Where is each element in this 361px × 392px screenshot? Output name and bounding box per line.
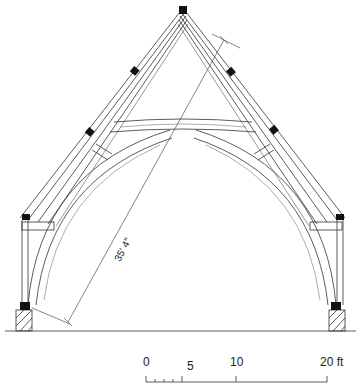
- truss-drawing: [0, 0, 361, 392]
- left-rafter: [20, 8, 188, 226]
- right-arch-brace: [194, 130, 336, 305]
- left-arch-brace: [28, 130, 172, 305]
- scale-tick-10: 10: [230, 355, 243, 369]
- right-rafter: [178, 8, 345, 226]
- scale-bar: [146, 376, 327, 382]
- scale-tick-0: 0: [143, 355, 150, 369]
- collar-beam: [110, 119, 256, 132]
- left-wall-base: [16, 310, 32, 331]
- right-strut-2: [254, 144, 270, 154]
- scale-tick-5: 5: [187, 359, 194, 373]
- joint-blocks: [20, 6, 344, 310]
- right-wall-base: [329, 310, 345, 331]
- scale-tick-20: 20 ft: [320, 355, 343, 369]
- dimension-line: [32, 34, 240, 326]
